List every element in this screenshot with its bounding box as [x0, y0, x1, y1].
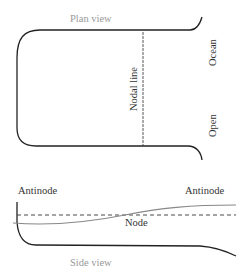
- basin-bottom-shoreline: [17, 128, 202, 160]
- plan-view: Plan view Nodal line Open Ocean: [17, 13, 218, 160]
- basin-floor-profile: [17, 202, 236, 256]
- side-view: Antinode Antinode Node Side view: [13, 185, 236, 268]
- antinode-left-label: Antinode: [18, 185, 57, 196]
- nodal-line-label: Nodal line: [128, 67, 139, 111]
- side-view-title: Side view: [70, 257, 112, 268]
- plan-view-title: Plan view: [70, 13, 112, 24]
- node-label: Node: [125, 217, 148, 228]
- open-label: Open: [207, 114, 218, 137]
- ocean-label: Ocean: [207, 38, 218, 66]
- antinode-right-label: Antinode: [185, 185, 224, 196]
- seiche-diagram: Plan view Nodal line Open Ocean Antinode…: [0, 0, 248, 278]
